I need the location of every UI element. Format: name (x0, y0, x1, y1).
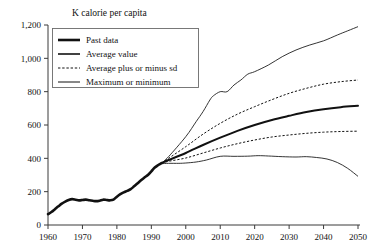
y-axis: 02004006008001,0001,200 (21, 20, 48, 230)
x-tick-label: 2000 (177, 232, 196, 242)
legend-label-2: Average plus or minus sd (86, 63, 178, 73)
k-calorie-per-capita-line-chart: K calorie per capita 02004006008001,0001… (0, 0, 372, 251)
series-line-average-value (162, 106, 358, 163)
x-tick-label: 2010 (211, 232, 230, 242)
chart-container: K calorie per capita 02004006008001,0001… (0, 0, 372, 251)
series-line-average-minus-sd (162, 131, 358, 163)
legend-label-3: Maximum or minimum (86, 77, 171, 87)
x-tick-label: 1980 (108, 232, 127, 242)
x-axis: 1960197019801990200020102020203020402050 (39, 225, 368, 242)
y-tick-label: 200 (28, 187, 42, 197)
y-tick-label: 0 (37, 220, 42, 230)
y-tick-label: 1,200 (21, 20, 42, 30)
y-tick-label: 600 (28, 120, 42, 130)
x-tick-label: 2030 (280, 232, 299, 242)
x-tick-label: 2050 (349, 232, 368, 242)
x-tick-label: 1970 (73, 232, 92, 242)
y-tick-group: 02004006008001,0001,200 (21, 20, 48, 230)
y-tick-label: 1,000 (21, 54, 42, 64)
legend-label-1: Average value (86, 49, 138, 59)
x-tick-group: 1960197019801990200020102020203020402050 (39, 225, 368, 242)
x-tick-label: 2040 (315, 232, 334, 242)
chart-legend: Past dataAverage valueAverage plus or mi… (53, 29, 199, 88)
x-tick-label: 1960 (39, 232, 58, 242)
y-tick-label: 400 (28, 154, 42, 164)
chart-title: K calorie per capita (72, 8, 147, 18)
legend-label-0: Past data (86, 35, 118, 45)
x-tick-label: 2020 (246, 232, 265, 242)
series-line-minimum (162, 156, 358, 177)
y-tick-label: 800 (28, 87, 42, 97)
x-tick-label: 1990 (142, 232, 161, 242)
series-line-past-data (48, 163, 162, 214)
